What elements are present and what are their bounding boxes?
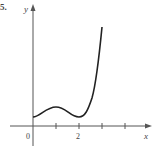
function-curve xyxy=(33,27,102,117)
x-tick-label-2: 2 xyxy=(76,132,80,141)
x-tick-label-0: 0 xyxy=(26,132,30,141)
chart-canvas: y x 0 2 xyxy=(0,0,154,150)
y-axis-arrow-icon xyxy=(31,4,36,11)
x-axis-arrow-icon xyxy=(145,124,152,129)
x-axis-label: x xyxy=(143,131,148,141)
y-axis-label: y xyxy=(23,4,28,14)
